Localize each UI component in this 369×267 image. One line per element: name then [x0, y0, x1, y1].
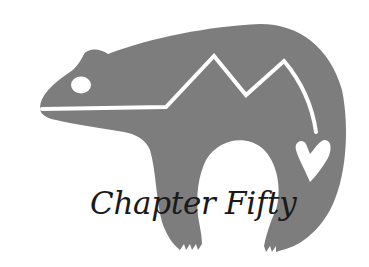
chapter-title: Chapter Fifty: [90, 188, 296, 219]
bear-eye: [71, 77, 91, 94]
chapter-heading-page: Chapter Fifty: [0, 0, 369, 267]
bear-heartline-icon: [0, 0, 369, 267]
